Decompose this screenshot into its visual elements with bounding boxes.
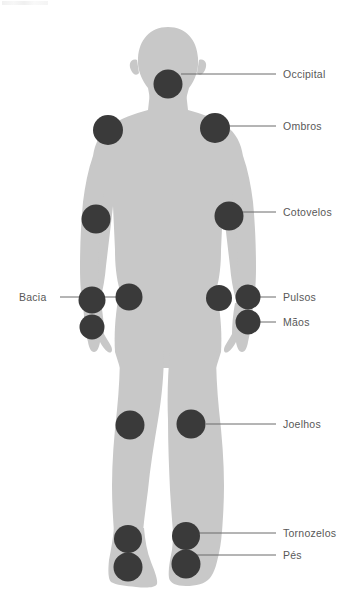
marker-hip-right[interactable] (79, 287, 106, 314)
body-part-ear-r (197, 60, 206, 75)
marker-occipital[interactable] (154, 70, 183, 99)
region-label-ombros: Ombros (283, 121, 322, 132)
marker-shoulder-left[interactable] (93, 115, 123, 145)
marker-ankle-right[interactable] (172, 522, 200, 550)
region-label-bacia: Bacia (19, 292, 47, 303)
body-part-ear-l (130, 60, 139, 75)
marker-elbow-right[interactable] (215, 202, 244, 231)
marker-elbow-left[interactable] (82, 205, 111, 234)
body-part-leg-l (112, 350, 164, 532)
body-diagram-canvas: OccipitalOmbrosCotovelosPulsosMãosJoelho… (0, 0, 355, 604)
body-part-leg-r (168, 350, 224, 532)
region-label-pes: Pés (283, 550, 302, 561)
region-label-joelhos: Joelhos (283, 419, 321, 430)
marker-knee-left[interactable] (116, 411, 145, 440)
marker-foot-left[interactable] (114, 553, 143, 582)
region-label-maos: Mãos (283, 317, 310, 328)
marker-hip-left[interactable] (116, 284, 143, 311)
marker-hand-left[interactable] (80, 315, 105, 340)
marker-knee-right[interactable] (177, 410, 206, 439)
region-label-occipital: Occipital (283, 69, 326, 80)
region-label-pulsos: Pulsos (283, 292, 316, 303)
marker-wrist-left[interactable] (206, 285, 232, 311)
region-label-tornozelos: Tornozelos (283, 528, 336, 539)
marker-hand-right[interactable] (236, 310, 261, 335)
marker-wrist-right[interactable] (236, 285, 261, 310)
marker-shoulder-right[interactable] (200, 113, 230, 143)
marker-ankle-left[interactable] (114, 525, 142, 553)
body-shape-group (80, 27, 256, 588)
marker-foot-right[interactable] (172, 550, 201, 579)
region-label-cotovelos: Cotovelos (283, 207, 332, 218)
